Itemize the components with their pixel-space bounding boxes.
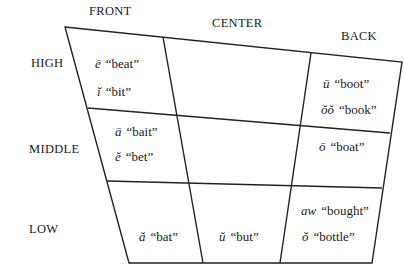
vowel-entry-bait: ābait (115, 124, 158, 140)
vowel-symbol: ŏ (302, 229, 309, 244)
vowel-symbol: ē (95, 56, 101, 71)
example-word: bait (127, 124, 158, 139)
vowel-entry-boat: ōboat (319, 139, 364, 155)
vowel-symbol: ĕ (115, 149, 121, 164)
vowel-entry-bet: ĕbet (115, 149, 153, 165)
vowel-symbol: ū (323, 76, 330, 91)
row-label-low: LOW (29, 222, 58, 237)
example-word: bet (126, 149, 153, 164)
vowel-entry-bat: ăbat (139, 229, 178, 245)
example-word: bottle (314, 229, 355, 244)
vowel-symbol: ŭ (219, 229, 226, 244)
column-label-center: CENTER (212, 16, 262, 31)
vowel-entry-bit: ĭbit (97, 84, 131, 100)
example-word: bought (321, 203, 369, 218)
vowel-symbol: ā (115, 124, 122, 139)
example-word: but (231, 229, 259, 244)
vowel-entry-bottle: ŏbottle (302, 229, 355, 245)
row-label-middle: MIDDLE (29, 142, 79, 157)
column-label-front: FRONT (89, 4, 131, 19)
vowel-symbol: ŏŏ (321, 102, 334, 117)
vowel-entry-bought: awbought (301, 203, 369, 219)
example-word: book (339, 102, 377, 117)
vowel-symbol: aw (301, 203, 316, 218)
divider-middle-low (107, 181, 382, 188)
vowel-symbol: ĭ (97, 84, 101, 99)
example-word: beat (106, 56, 139, 71)
vowel-entry-boot: ūboot (323, 76, 369, 92)
vowel-entry-but: ŭbut (219, 229, 259, 245)
example-word: bit (106, 84, 131, 99)
vowel-entry-book: ŏŏbook (321, 102, 377, 118)
example-word: boat (331, 139, 365, 154)
example-word: boot (335, 76, 370, 91)
column-label-back: BACK (341, 29, 377, 44)
vowel-symbol: ō (319, 139, 326, 154)
example-word: bat (151, 229, 178, 244)
vowel-symbol: ă (139, 229, 146, 244)
row-label-high: HIGH (31, 56, 63, 71)
vowel-entry-beat: ēbeat (95, 56, 139, 72)
